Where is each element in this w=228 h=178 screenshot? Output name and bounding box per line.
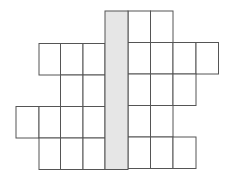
grid-cell — [83, 44, 105, 76]
grid-cell — [128, 74, 151, 106]
grid-cell — [151, 74, 174, 106]
grid-cell — [128, 137, 151, 169]
grid-cell — [61, 107, 84, 139]
grid-cell — [128, 11, 151, 43]
grid-cell — [128, 106, 151, 138]
grid-cell — [39, 44, 61, 76]
grid-cell — [61, 75, 84, 107]
grid-cell — [39, 107, 61, 139]
grid-cell — [128, 43, 151, 75]
shaded-column — [105, 11, 128, 170]
grid-cell — [83, 138, 105, 170]
grid-cell — [151, 106, 174, 138]
grid-cell — [61, 138, 84, 170]
grid-cell — [173, 43, 196, 75]
grid-cell — [196, 43, 219, 75]
grid-cell — [61, 44, 84, 76]
grid-diagram — [0, 0, 228, 178]
grid-cell — [83, 75, 105, 107]
grid-cell — [173, 74, 196, 106]
grid-cell — [151, 137, 174, 169]
grid-cell — [151, 11, 174, 43]
grid-cell — [16, 107, 39, 139]
grid-cell — [151, 43, 174, 75]
grid-cell — [173, 137, 196, 169]
grid-cell — [39, 138, 61, 170]
grid-cell — [83, 107, 105, 139]
